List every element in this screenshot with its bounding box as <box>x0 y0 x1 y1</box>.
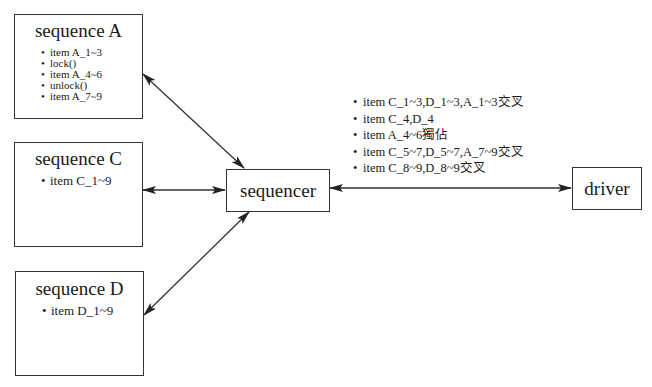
sequencer-box: sequencer <box>226 169 330 212</box>
sequence-d-title: sequence D <box>16 279 143 299</box>
arrow-a-sequencer <box>143 74 244 168</box>
arrow-d-sequencer <box>144 212 249 315</box>
list-item: item C_4,D_4 <box>353 111 524 128</box>
sequence-c-items: item C_1~9 <box>41 174 112 187</box>
driver-box: driver <box>572 167 642 210</box>
sequence-a-box: sequence A item A_1~3 lock() item A_4~6 … <box>14 14 143 119</box>
sequence-d-box: sequence D item D_1~9 <box>15 271 144 376</box>
list-item: item C_8~9,D_8~9交叉 <box>353 160 524 177</box>
sequence-c-box: sequence C item C_1~9 <box>14 142 143 247</box>
sequence-a-title: sequence A <box>15 21 142 41</box>
list-item: item D_1~9 <box>42 304 113 317</box>
sequence-d-items: item D_1~9 <box>42 304 113 317</box>
list-item: item C_5~7,D_5~7,A_7~9交叉 <box>353 144 524 161</box>
list-item: item C_1~3,D_1~3,A_1~3交叉 <box>353 94 524 111</box>
list-item: item A_4~6獨佔 <box>353 127 524 144</box>
sequencer-driver-note: item C_1~3,D_1~3,A_1~3交叉 item C_4,D_4 it… <box>353 94 524 177</box>
sequencer-label: sequencer <box>227 170 329 211</box>
list-item: item C_1~9 <box>41 174 112 187</box>
list-item: item A_7~9 <box>41 91 102 102</box>
sequence-a-items: item A_1~3 lock() item A_4~6 unlock() it… <box>41 47 102 102</box>
sequence-c-title: sequence C <box>15 149 142 169</box>
driver-label: driver <box>573 168 641 209</box>
